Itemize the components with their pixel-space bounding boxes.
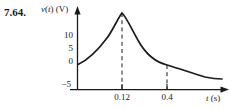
y-axis xyxy=(74,6,80,90)
plot-svg xyxy=(0,0,241,108)
x-axis xyxy=(70,86,229,92)
waveform-curve xyxy=(78,13,222,79)
figure-container: 7.64. v(t) (V) t (s) 10 5 0 −5 0.12 0.4 xyxy=(0,0,241,108)
